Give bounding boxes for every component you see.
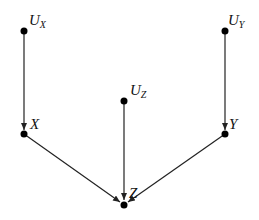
label-z: Z	[129, 185, 138, 201]
causal-diagram: UX UZ UY X Y Z	[0, 0, 259, 220]
edge-y-z	[128, 134, 225, 202]
labels: UX UZ UY X Y Z	[29, 12, 246, 201]
label-ux: UX	[29, 12, 47, 30]
edge-x-z	[24, 134, 120, 202]
label-y: Y	[229, 116, 239, 132]
node-z	[121, 202, 128, 209]
node-x	[21, 131, 28, 138]
node-uy	[222, 28, 229, 35]
node-y	[222, 131, 229, 138]
label-uz: UZ	[130, 82, 147, 100]
label-uy: UY	[228, 12, 246, 30]
node-ux	[21, 28, 28, 35]
edges	[24, 31, 225, 202]
label-x: X	[29, 116, 40, 132]
node-uz	[121, 98, 128, 105]
